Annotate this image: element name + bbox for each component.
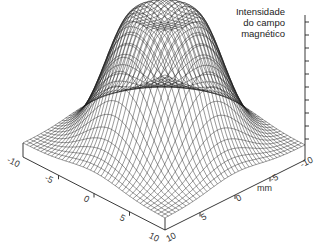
mesh-line	[165, 75, 305, 145]
mesh-line	[59, 57, 201, 196]
mesh-line	[108, 0, 249, 167]
z-axis-label: Intensidade do campo magnético	[236, 6, 285, 39]
mesh-line	[37, 81, 179, 150]
plot-axes	[23, 15, 305, 230]
mesh-line	[76, 17, 217, 184]
mesh-line	[108, 14, 249, 181]
z-label-line-3: magnético	[236, 28, 285, 39]
z-label-line-2: do campo	[236, 17, 285, 28]
mesh-line	[105, 11, 246, 178]
mesh-line	[130, 58, 271, 196]
mesh-line	[101, 9, 242, 177]
mesh-line	[23, 75, 165, 143]
mesh-line	[137, 87, 277, 201]
mesh-line	[165, 145, 305, 218]
mesh-line	[34, 138, 176, 213]
mesh-line	[147, 74, 287, 153]
mesh-line	[137, 44, 277, 158]
mesh-line	[62, 45, 203, 194]
z-label-line-1: Intensidade	[236, 6, 285, 17]
mesh-line	[161, 143, 301, 216]
mesh-line	[101, 1, 242, 170]
mesh-line	[55, 32, 197, 157]
y-axis-label: mm	[257, 183, 272, 193]
mesh-line	[140, 55, 280, 156]
